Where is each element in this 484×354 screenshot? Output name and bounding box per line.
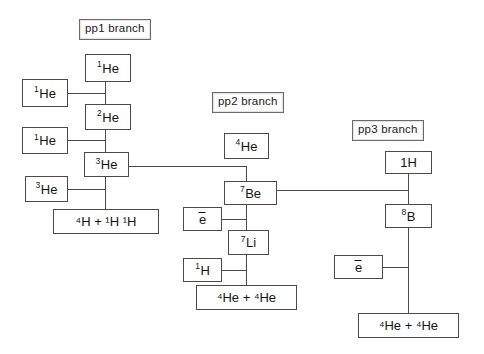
mass-number: 3 xyxy=(36,180,41,190)
connector-pp2-be7-to-pp3 xyxy=(277,190,408,191)
connector-pp1-left-he1-b xyxy=(66,140,106,141)
mass-number: 3 xyxy=(96,156,101,166)
connector-pp1-he3-to-pp2 xyxy=(128,166,246,167)
element-symbol: Li xyxy=(246,235,256,250)
node-pp1-he3: 3He xyxy=(84,152,129,177)
electron-symbol: e xyxy=(199,212,206,226)
node-pp3-b8: 8B xyxy=(385,204,432,228)
node-pp2-electron: e xyxy=(183,207,222,231)
connector-pp2-he4-to-be7 xyxy=(246,166,247,181)
connector-pp3-electron xyxy=(383,267,409,268)
branch-label-pp3: pp3 branch xyxy=(352,120,424,141)
connector-pp1-left-he1-a xyxy=(66,93,106,94)
mass-number: 4 xyxy=(236,137,241,147)
node-pp1-he1-left-1: 1He xyxy=(22,79,68,107)
node-pp2-h1: 1H xyxy=(183,258,222,282)
connector-pp3-h1-to-b8 xyxy=(408,174,409,204)
minus-overbar xyxy=(199,212,206,213)
element-symbol: He xyxy=(41,182,58,197)
mass-number: 7 xyxy=(240,184,245,194)
element-symbol: B xyxy=(407,209,416,224)
diagram-canvas: pp1 branch pp2 branch pp3 branch 1He 1He… xyxy=(0,0,484,354)
element-symbol: He xyxy=(102,61,119,76)
node-pp2-products: ⁴He + ⁴He xyxy=(196,285,297,310)
minus-overbar xyxy=(355,260,362,261)
branch-label-pp2: pp2 branch xyxy=(212,92,284,113)
branch-label-pp1: pp1 branch xyxy=(79,19,151,40)
node-pp3-electron: e xyxy=(334,255,383,279)
connector-pp2-be7-to-li7 xyxy=(246,205,247,230)
connector-pp1-left-he3 xyxy=(66,189,106,190)
mass-number: 8 xyxy=(402,207,407,217)
node-pp2-he4: 4He xyxy=(224,133,269,159)
connector-pp1-he3-to-products xyxy=(105,176,106,209)
mass-number: 7 xyxy=(241,234,246,244)
node-pp1-he2: 2He xyxy=(85,104,131,130)
connector-pp2-h1 xyxy=(222,270,247,271)
electron-symbol: e xyxy=(355,260,362,274)
node-pp3-h1: 1H xyxy=(385,151,432,174)
node-pp2-li7: 7Li xyxy=(228,230,269,255)
node-pp3-products: ⁴He + ⁴He xyxy=(358,313,459,338)
element-symbol: He xyxy=(39,133,56,148)
node-pp1-he1-top: 1He xyxy=(85,54,131,82)
element-symbol: He xyxy=(102,110,119,125)
element-symbol: Be xyxy=(245,186,261,201)
node-pp1-he3-left: 3He xyxy=(25,176,68,202)
node-pp1-he1-left-2: 1He xyxy=(22,127,68,154)
element-symbol: He xyxy=(241,139,258,154)
element-symbol: He xyxy=(39,86,56,101)
connector-pp3-b8-to-products xyxy=(408,228,409,313)
node-pp2-be7: 7Be xyxy=(224,181,277,205)
connector-pp2-electron xyxy=(222,219,247,220)
element-symbol: He xyxy=(101,157,118,172)
node-pp1-products: ⁴H + ¹H ¹H xyxy=(53,209,159,234)
element-symbol: H xyxy=(200,263,209,278)
